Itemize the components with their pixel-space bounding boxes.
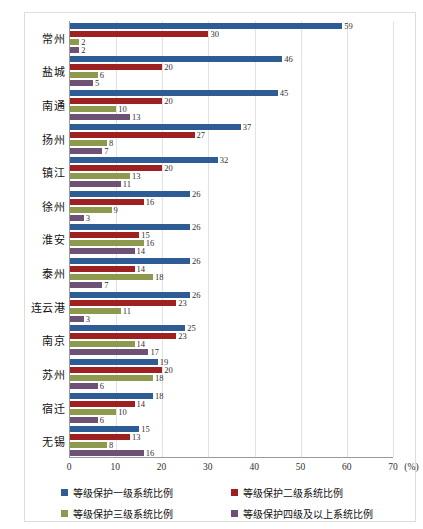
bar-无锡-s2[interactable]: [70, 434, 130, 440]
bar-镇江-s4[interactable]: [70, 181, 121, 187]
bar-南通-s1[interactable]: [70, 90, 278, 96]
bar-镇江-s2[interactable]: [70, 165, 162, 171]
bar-徐州-s4[interactable]: [70, 215, 84, 221]
bar-slot: 23: [70, 333, 393, 339]
bar-徐州-s2[interactable]: [70, 199, 144, 205]
bar-slot: 23: [70, 300, 393, 306]
bar-镇江-s3[interactable]: [70, 173, 130, 179]
bar-镇江-s1[interactable]: [70, 157, 218, 163]
bar-宿迁-s3[interactable]: [70, 409, 116, 415]
bar-宿迁-s4[interactable]: [70, 417, 98, 423]
category-label-常州: 常州: [42, 30, 65, 46]
bar-常州-s4[interactable]: [70, 47, 79, 53]
bar-value-label: 20: [164, 163, 173, 173]
bar-slot: 27: [70, 132, 393, 138]
bar-泰州-s3[interactable]: [70, 274, 153, 280]
bar-value-label: 11: [123, 179, 131, 189]
bar-南京-s3[interactable]: [70, 341, 135, 347]
bar-淮安-s3[interactable]: [70, 240, 144, 246]
bar-slot: 14: [70, 266, 393, 272]
legend-item-2[interactable]: 等级保护二级系统比例: [231, 485, 423, 500]
bar-value-label: 16: [146, 197, 155, 207]
bar-常州-s1[interactable]: [70, 23, 342, 29]
bar-value-label: 3: [86, 314, 90, 324]
bar-value-label: 20: [164, 62, 173, 72]
category-row: 南通45201013: [70, 88, 393, 122]
bar-value-label: 23: [178, 298, 187, 308]
bar-泰州-s4[interactable]: [70, 282, 102, 288]
legend-label: 等级保护二级系统比例: [243, 485, 343, 500]
bar-无锡-s4[interactable]: [70, 450, 144, 456]
x-axis: 010203040506070(%): [69, 462, 393, 478]
bar-slot: 25: [70, 325, 393, 331]
legend-swatch-icon: [231, 489, 238, 496]
bar-value-label: 14: [137, 264, 146, 274]
category-row: 南京25231417: [70, 324, 393, 358]
bar-value-label: 20: [164, 96, 173, 106]
bar-连云港-s4[interactable]: [70, 316, 84, 322]
bar-slot: 14: [70, 248, 393, 254]
bar-value-label: 6: [100, 381, 104, 391]
bar-slot: 6: [70, 383, 393, 389]
bar-连云港-s3[interactable]: [70, 308, 121, 314]
bar-苏州-s2[interactable]: [70, 367, 162, 373]
legend-item-3[interactable]: 等级保护三级系统比例: [61, 506, 231, 521]
bar-淮安-s2[interactable]: [70, 232, 139, 238]
category-label-苏州: 苏州: [42, 366, 65, 382]
bar-无锡-s3[interactable]: [70, 442, 107, 448]
bar-苏州-s4[interactable]: [70, 383, 98, 389]
bar-slot: 17: [70, 349, 393, 355]
bar-slot: 18: [70, 393, 393, 399]
bar-value-label: 8: [109, 137, 113, 147]
bar-扬州-s4[interactable]: [70, 148, 102, 154]
bar-slot: 13: [70, 173, 393, 179]
bar-slot: 8: [70, 140, 393, 146]
bar-苏州-s1[interactable]: [70, 359, 158, 365]
bar-南京-s1[interactable]: [70, 325, 185, 331]
bar-连云港-s1[interactable]: [70, 292, 190, 298]
legend-item-1[interactable]: 等级保护一级系统比例: [61, 485, 231, 500]
bar-南通-s3[interactable]: [70, 106, 116, 112]
bar-value-label: 13: [132, 112, 141, 122]
bar-淮安-s4[interactable]: [70, 248, 135, 254]
bar-扬州-s1[interactable]: [70, 124, 241, 130]
bar-value-label: 14: [137, 246, 146, 256]
bar-常州-s2[interactable]: [70, 31, 208, 37]
bar-slot: 8: [70, 442, 393, 448]
bar-slot: 7: [70, 148, 393, 154]
bar-盐城-s3[interactable]: [70, 72, 98, 78]
bar-徐州-s3[interactable]: [70, 207, 112, 213]
bar-value-label: 26: [192, 189, 201, 199]
bar-value-label: 6: [100, 414, 104, 424]
bar-泰州-s2[interactable]: [70, 266, 135, 272]
bar-value-label: 7: [104, 145, 108, 155]
bar-扬州-s2[interactable]: [70, 132, 195, 138]
bar-slot: 32: [70, 157, 393, 163]
bar-苏州-s3[interactable]: [70, 375, 153, 381]
bar-value-label: 26: [192, 222, 201, 232]
bar-无锡-s1[interactable]: [70, 426, 139, 432]
bar-value-label: 17: [150, 347, 159, 357]
bar-扬州-s3[interactable]: [70, 140, 107, 146]
bar-淮安-s1[interactable]: [70, 224, 190, 230]
bar-slot: 46: [70, 56, 393, 62]
bar-南通-s4[interactable]: [70, 114, 130, 120]
bar-南京-s2[interactable]: [70, 333, 176, 339]
bar-南京-s4[interactable]: [70, 349, 148, 355]
bar-value-label: 18: [155, 373, 164, 383]
legend-item-4[interactable]: 等级保护四级及以上系统比例: [231, 506, 423, 521]
bar-盐城-s4[interactable]: [70, 80, 93, 86]
bar-盐城-s1[interactable]: [70, 56, 282, 62]
bar-value-label: 9: [114, 205, 118, 215]
bar-常州-s3[interactable]: [70, 39, 79, 45]
bar-value-label: 10: [118, 406, 127, 416]
bar-value-label: 16: [146, 238, 155, 248]
bar-value-label: 6: [100, 70, 104, 80]
bar-泰州-s1[interactable]: [70, 258, 190, 264]
bar-value-label: 32: [220, 155, 229, 165]
bar-盐城-s2[interactable]: [70, 64, 162, 70]
bar-徐州-s1[interactable]: [70, 191, 190, 197]
category-row: 泰州2614187: [70, 256, 393, 290]
bar-value-label: 11: [123, 306, 131, 316]
bar-南通-s2[interactable]: [70, 98, 162, 104]
